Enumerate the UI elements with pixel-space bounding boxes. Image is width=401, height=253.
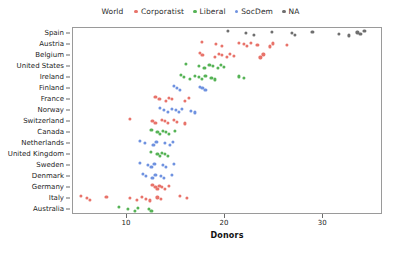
data-point xyxy=(171,140,174,143)
data-point xyxy=(245,44,248,47)
y-axis-tick xyxy=(66,76,70,77)
data-point xyxy=(189,109,192,112)
data-point xyxy=(187,96,190,99)
legend-dot-icon xyxy=(235,10,239,14)
data-point xyxy=(140,195,143,198)
data-point xyxy=(180,107,183,110)
data-point xyxy=(210,76,213,79)
data-point xyxy=(259,56,262,59)
legend-label-socdem: SocDem xyxy=(241,7,273,16)
data-point xyxy=(128,197,131,200)
data-point xyxy=(168,184,171,187)
data-point xyxy=(159,107,162,110)
legend-label-na: NA xyxy=(289,7,300,16)
data-point xyxy=(185,196,188,199)
x-axis-tick xyxy=(224,214,225,218)
y-axis-tick xyxy=(66,65,70,66)
legend-item-corporatist[interactable]: Corporatist xyxy=(134,7,184,16)
data-point xyxy=(88,198,91,201)
y-axis-label-united-kingdom: United Kingdom xyxy=(8,150,64,158)
data-point xyxy=(164,142,167,145)
data-point xyxy=(79,195,82,198)
data-point xyxy=(201,53,204,56)
data-point xyxy=(177,110,180,113)
data-point xyxy=(133,209,136,212)
legend-dot-icon xyxy=(134,10,138,14)
data-point xyxy=(222,65,225,68)
y-axis-label-austria: Austria xyxy=(39,40,64,48)
data-point xyxy=(269,45,272,48)
legend-item-liberal[interactable]: Liberal xyxy=(193,7,226,16)
legend-item-socdem[interactable]: SocDem xyxy=(235,7,273,16)
data-point xyxy=(184,63,187,66)
y-axis-tick xyxy=(66,120,70,121)
y-axis-tick xyxy=(66,54,70,55)
data-point xyxy=(146,163,149,166)
y-axis-tick xyxy=(66,153,70,154)
data-point xyxy=(272,42,275,45)
y-axis-tick xyxy=(66,142,70,143)
y-axis-label-australia: Australia xyxy=(33,205,64,213)
data-point xyxy=(149,151,152,154)
data-point xyxy=(182,75,185,78)
data-point xyxy=(167,110,170,113)
y-axis-tick xyxy=(66,208,70,209)
data-point xyxy=(169,143,172,146)
y-axis-tick xyxy=(66,32,70,33)
data-point xyxy=(159,154,162,157)
data-point xyxy=(188,77,191,80)
data-point xyxy=(237,75,240,78)
data-point xyxy=(203,66,206,69)
data-point xyxy=(214,55,217,58)
data-point xyxy=(178,195,181,198)
y-axis-label-switzerland: Switzerland xyxy=(23,117,64,125)
data-point xyxy=(170,107,173,110)
data-point xyxy=(249,41,252,44)
data-point xyxy=(172,162,175,165)
data-point xyxy=(165,99,168,102)
data-point xyxy=(164,187,167,190)
data-point xyxy=(183,99,186,102)
data-point xyxy=(156,196,159,199)
data-point xyxy=(154,121,157,124)
data-point xyxy=(363,30,366,33)
legend-item-na[interactable]: NA xyxy=(282,7,300,16)
y-axis-tick xyxy=(66,186,70,187)
y-axis-label-germany: Germany xyxy=(32,183,64,191)
data-point xyxy=(232,54,235,57)
legend-title: World xyxy=(101,7,123,16)
y-axis: SpainAustriaBelgiumUnited StatesIrelandF… xyxy=(0,27,72,214)
data-point xyxy=(221,44,224,47)
data-point xyxy=(244,31,247,34)
data-point xyxy=(144,174,147,177)
data-point xyxy=(226,30,229,33)
data-point xyxy=(153,162,156,165)
data-point xyxy=(262,53,265,56)
data-point xyxy=(242,77,245,80)
data-point xyxy=(256,43,259,46)
data-point xyxy=(128,118,131,121)
data-point xyxy=(212,65,215,68)
y-axis-label-italy: Italy xyxy=(49,194,64,202)
x-axis-title: Donors xyxy=(72,231,382,240)
data-point xyxy=(150,129,153,132)
data-point xyxy=(105,195,108,198)
data-point xyxy=(168,132,171,135)
data-point xyxy=(197,64,200,67)
y-axis-tick xyxy=(66,109,70,110)
data-point xyxy=(155,140,158,143)
y-axis-label-france: France xyxy=(41,95,64,103)
data-point xyxy=(285,44,288,47)
data-point xyxy=(175,120,178,123)
data-point xyxy=(359,33,362,36)
y-axis-label-netherlands: Netherlands xyxy=(21,139,64,147)
data-point xyxy=(151,176,154,179)
y-axis-label-denmark: Denmark xyxy=(32,172,64,180)
data-point xyxy=(252,33,255,36)
data-point xyxy=(160,198,163,201)
y-axis-label-finland: Finland xyxy=(39,84,64,92)
y-axis-tick xyxy=(66,43,70,44)
data-point xyxy=(154,173,157,176)
data-point xyxy=(150,165,153,168)
data-point xyxy=(178,88,181,91)
